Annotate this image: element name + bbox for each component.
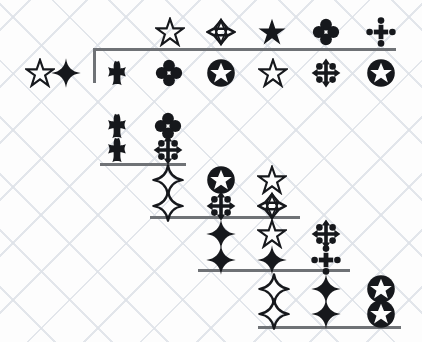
four-point-sparkle-solid-icon	[204, 243, 238, 277]
four-lobe-clover-icon	[309, 15, 343, 49]
star-outline-icon	[153, 15, 187, 49]
four-arrow-cross-icon	[151, 133, 185, 167]
circled-star-icon	[204, 56, 238, 90]
four-point-sparkle-solid-icon	[309, 297, 343, 331]
four-point-sparkle-solid-icon	[49, 56, 83, 90]
four-lobe-clover-icon	[152, 56, 186, 90]
bracket-rule-row1	[93, 48, 396, 51]
star-solid-icon	[255, 15, 289, 49]
dotted-four-arrow-cross-icon	[364, 15, 398, 49]
bracket-tick-left	[93, 48, 96, 83]
four-point-sparkle-outline-icon	[257, 297, 291, 331]
four-point-sparkle-outline-icon	[151, 189, 185, 223]
circled-star-icon	[364, 56, 398, 90]
circled-star-icon	[364, 297, 398, 331]
star-outline-icon	[256, 56, 290, 90]
star-of-david-outline-icon	[204, 15, 238, 49]
symbol-canvas	[0, 0, 422, 342]
budded-cross-icon	[100, 56, 134, 90]
four-arrow-cross-icon	[309, 56, 343, 90]
budded-cross-icon	[100, 133, 134, 167]
